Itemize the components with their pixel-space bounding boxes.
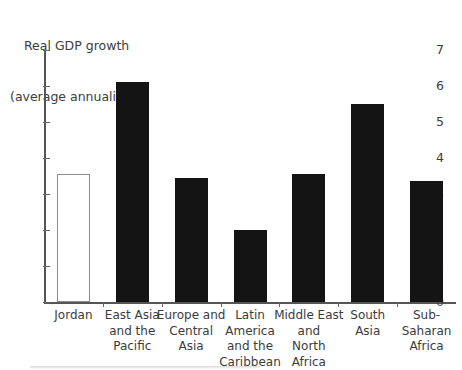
x-tick <box>162 302 163 307</box>
x-tick <box>221 302 222 307</box>
y-tick-7 <box>43 50 50 51</box>
x-tick <box>103 302 104 307</box>
x-tick <box>397 302 398 307</box>
y-tick-label-5: 5 <box>422 116 444 129</box>
y-tick-label-7: 7 <box>422 44 444 57</box>
x-tick <box>338 302 339 307</box>
y-tick-5 <box>43 122 50 123</box>
page-cutoff-artifact <box>30 366 260 369</box>
y-tick-label-4: 4 <box>422 152 444 165</box>
y-tick-4 <box>43 158 50 159</box>
y-tick-6 <box>43 86 50 87</box>
bar-chart: Real GDP growth (average annualized) 012… <box>0 0 462 370</box>
y-axis-line <box>44 50 46 302</box>
bar <box>351 104 384 302</box>
y-tick-1 <box>43 266 50 267</box>
y-tick-2 <box>43 230 50 231</box>
bar <box>116 82 149 302</box>
bar <box>234 230 267 302</box>
y-tick-3 <box>43 194 50 195</box>
y-tick-0 <box>43 302 50 303</box>
x-category-label: Sub-Saharan Africa <box>391 308 462 355</box>
bar <box>57 174 90 302</box>
bar <box>175 178 208 302</box>
x-axis-line <box>44 302 456 304</box>
bar <box>410 181 443 302</box>
bar <box>292 174 325 302</box>
plot-area: 01234567 <box>44 50 456 302</box>
y-tick-label-6: 6 <box>422 80 444 93</box>
x-tick <box>279 302 280 307</box>
